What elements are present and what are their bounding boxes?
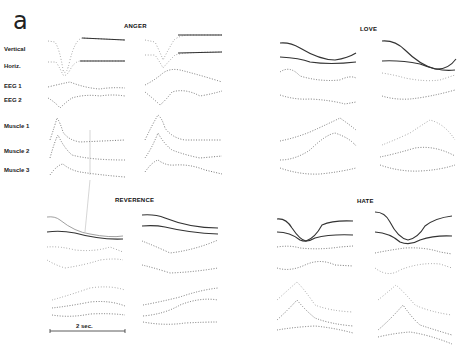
hate-trial-2 xyxy=(375,212,452,344)
scale-bar-label: 2 sec. xyxy=(76,323,93,329)
traces-plot: .solid { fill:none; stroke:#333; stroke-… xyxy=(0,0,474,353)
reverence-trial-1 xyxy=(47,180,125,316)
hate-trial-1 xyxy=(277,219,353,333)
love-trial-1 xyxy=(280,43,356,174)
reverence-trial-2 xyxy=(142,215,218,324)
anger-trial-1 xyxy=(48,38,125,177)
scale-bar xyxy=(50,329,125,333)
anger-trial-2 xyxy=(145,35,222,174)
love-trial-2 xyxy=(380,41,456,171)
